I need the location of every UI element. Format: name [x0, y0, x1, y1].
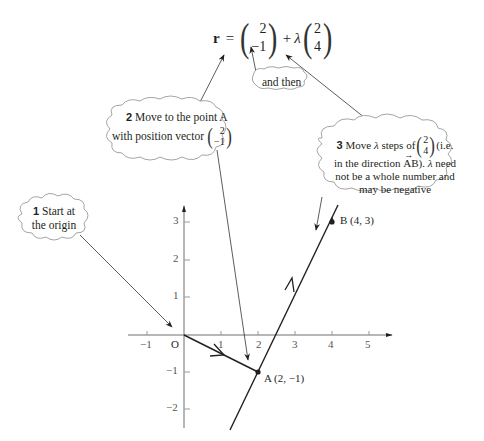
step2-vector: ( 2 −1 ): [206, 124, 233, 148]
pointer-step1: [80, 235, 172, 327]
x-tick-neg1: −1: [140, 338, 152, 350]
position-vector-a: ( 2 −1 ): [238, 18, 280, 58]
line-direction-arrow: [285, 278, 294, 292]
x-tick-4: 4: [328, 338, 334, 350]
axes: [128, 206, 392, 428]
equals-sign: =: [226, 30, 234, 47]
x-tick-5: 5: [365, 338, 371, 350]
point-a-label: A (2, −1): [264, 371, 304, 385]
step3-vector: ( 2 4 ): [415, 133, 436, 157]
plus-sign: +: [283, 30, 291, 47]
direction-vector: ( 2 4 ): [301, 18, 335, 58]
pointer-step3-down: [316, 197, 322, 230]
point-a: [255, 369, 260, 374]
y-ticks: [184, 222, 190, 409]
x-tick-2: 2: [256, 338, 262, 350]
y-tick-3: 3: [173, 214, 179, 226]
overarrow-icon: →: [404, 149, 413, 162]
pointer-step2-down: [217, 150, 248, 360]
origin-label: O: [171, 338, 179, 350]
callout-step3: 3 Move λ steps of ( 2 4 ) (i.e. in the d…: [326, 133, 464, 196]
point-b-label: B (4, 3): [340, 213, 374, 227]
callout-step1: 1 Start at the origin: [22, 204, 86, 232]
vector-equation: r = ( 2 −1 ) + λ ( 2 4 ): [213, 18, 334, 58]
y-tick-2: 2: [173, 252, 179, 264]
point-b: [329, 219, 334, 224]
y-tick-neg2: −2: [166, 401, 178, 413]
r-symbol: r: [213, 30, 220, 47]
x-ticks: [147, 331, 369, 335]
y-tick-1: 1: [173, 289, 179, 301]
callout-step2: 2 Move to the point A with position vect…: [112, 110, 233, 148]
callout-and-then: and then: [262, 75, 301, 89]
x-tick-1: 1: [218, 338, 224, 350]
x-tick-3: 3: [292, 338, 298, 350]
line-r: [230, 205, 338, 430]
y-tick-neg1: −1: [166, 364, 178, 376]
